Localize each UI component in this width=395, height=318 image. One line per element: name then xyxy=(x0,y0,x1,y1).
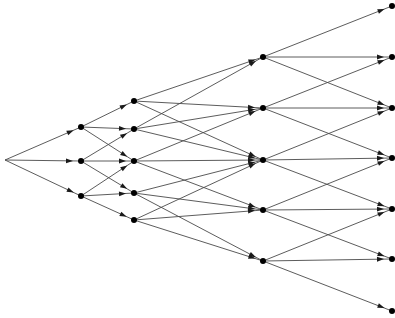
tree-edge xyxy=(134,101,263,108)
tree-node-l3-n0 xyxy=(260,54,266,60)
arrowhead-icon xyxy=(248,111,255,116)
arrowhead-icon xyxy=(120,151,127,157)
tree-edge xyxy=(134,101,263,160)
tree-node-l4-n3 xyxy=(389,155,395,161)
edges-layer xyxy=(5,6,392,311)
tree-node-l3-n2 xyxy=(260,157,266,163)
arrowhead-icon xyxy=(377,60,384,65)
arrowhead-icon xyxy=(377,161,384,166)
tree-edge xyxy=(134,108,263,161)
arrowhead-icon xyxy=(119,126,126,131)
arrowhead-icon xyxy=(377,55,384,60)
tree-edge xyxy=(134,160,263,161)
tree-edge xyxy=(134,160,263,220)
tree-node-l2-n2 xyxy=(131,158,137,164)
tree-edge xyxy=(134,193,263,261)
arrowhead-icon xyxy=(119,191,126,196)
arrowhead-icon xyxy=(377,251,384,256)
tree-edge xyxy=(263,158,392,160)
tree-node-l4-n0 xyxy=(389,3,395,9)
arrowhead-icon xyxy=(377,257,384,262)
arrowhead-icon xyxy=(119,159,126,164)
tree-edge xyxy=(134,210,263,220)
arrowhead-icon xyxy=(66,187,73,192)
tree-edge xyxy=(263,6,392,57)
tree-edge xyxy=(263,210,392,259)
arrowhead-icon xyxy=(377,207,384,212)
arrowhead-icon xyxy=(377,212,384,217)
arrowhead-icon xyxy=(119,212,126,217)
arrowhead-icon xyxy=(248,163,255,168)
tree-edge xyxy=(134,129,263,160)
tree-edge xyxy=(134,57,263,101)
tree-edge xyxy=(263,209,392,261)
tree-node-l2-n3 xyxy=(131,190,137,196)
tree-node-l3-n1 xyxy=(260,105,266,111)
tree-node-l4-n4 xyxy=(389,206,395,212)
tree-edge xyxy=(134,160,263,193)
trinomial-tree-diagram xyxy=(0,0,395,318)
arrowhead-icon xyxy=(377,111,384,116)
tree-edge xyxy=(81,193,134,196)
tree-node-l2-n4 xyxy=(131,217,137,223)
arrowhead-icon xyxy=(66,130,73,135)
tree-node-l4-n5 xyxy=(389,256,395,262)
arrowhead-icon xyxy=(377,106,384,111)
tree-node-l3-n3 xyxy=(260,207,266,213)
tree-node-l1-n2 xyxy=(78,193,84,199)
tree-edge xyxy=(134,161,263,210)
tree-edge xyxy=(263,209,392,210)
tree-node-l3-n4 xyxy=(260,258,266,264)
tree-edge xyxy=(263,158,392,210)
arrowhead-icon xyxy=(377,9,384,14)
tree-node-l1-n1 xyxy=(78,158,84,164)
arrowhead-icon xyxy=(119,105,126,110)
tree-edge xyxy=(134,220,263,261)
arrowhead-icon xyxy=(377,303,384,308)
tree-node-l4-n6 xyxy=(389,308,395,314)
tree-node-l2-n0 xyxy=(131,98,137,104)
tree-edge xyxy=(81,127,134,129)
arrowhead-icon xyxy=(377,150,384,155)
arrowhead-icon xyxy=(377,201,384,206)
tree-edge xyxy=(263,160,392,209)
arrowhead-icon xyxy=(66,158,73,163)
tree-node-l1-n0 xyxy=(78,124,84,130)
tree-edge xyxy=(134,193,263,210)
arrowhead-icon xyxy=(377,100,384,105)
tree-node-l4-n1 xyxy=(389,54,395,60)
tree-edge xyxy=(263,261,392,311)
tree-edge xyxy=(263,259,392,261)
arrowhead-icon xyxy=(120,183,127,189)
tree-node-l2-n1 xyxy=(131,126,137,132)
arrowhead-icon xyxy=(120,133,127,139)
tree-node-l4-n2 xyxy=(389,105,395,111)
arrowhead-icon xyxy=(377,156,384,161)
arrowhead-icon xyxy=(120,165,127,171)
